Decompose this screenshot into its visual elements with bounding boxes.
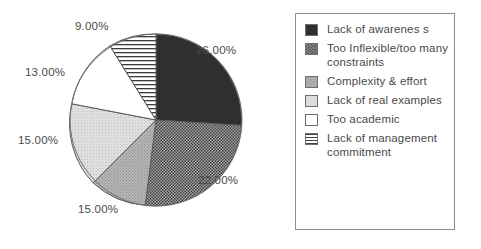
legend-label: Lack of awarenes s bbox=[327, 22, 429, 36]
legend: Lack of awarenes s Too Inflexible/too ma… bbox=[295, 13, 455, 230]
pie-label-15-bottom: 15.00% bbox=[78, 203, 118, 215]
pie-plot-area: 26.00% 22.00% 15.00% 15.00% 13.00% 9.00% bbox=[0, 0, 290, 249]
legend-item-too-academic[interactable]: Too academic bbox=[305, 112, 451, 126]
legend-label: Lack of real examples bbox=[327, 93, 442, 107]
legend-label: Lack of management commitment bbox=[327, 131, 451, 159]
pie-svg bbox=[0, 0, 290, 249]
legend-item-complexity-effort[interactable]: Complexity & effort bbox=[305, 74, 451, 88]
legend-swatch-solid-dark-icon bbox=[305, 24, 318, 36]
legend-swatch-horizontal-lines-icon bbox=[305, 133, 318, 145]
pie-label-15-left: 15.00% bbox=[18, 134, 58, 146]
legend-item-lack-of-management-commitment[interactable]: Lack of management commitment bbox=[305, 131, 451, 159]
legend-item-lack-of-real-examples[interactable]: Lack of real examples bbox=[305, 93, 451, 107]
legend-label: Complexity & effort bbox=[327, 74, 427, 88]
legend-label: Too Inflexible/too many constraints bbox=[327, 41, 451, 69]
legend-label: Too academic bbox=[327, 112, 400, 126]
pie-label-9: 9.00% bbox=[75, 20, 109, 32]
legend-item-too-inflexible[interactable]: Too Inflexible/too many constraints bbox=[305, 41, 451, 69]
legend-swatch-checker-icon bbox=[305, 43, 318, 55]
legend-swatch-light-gray-icon bbox=[305, 95, 318, 107]
legend-swatch-mid-gray-icon bbox=[305, 76, 318, 88]
pie-label-22: 22.00% bbox=[198, 174, 238, 186]
pie-slice-too-inflexible bbox=[145, 120, 241, 206]
legend-items: Lack of awarenes s Too Inflexible/too ma… bbox=[305, 22, 451, 164]
pie-label-26: 26.00% bbox=[196, 44, 236, 56]
legend-swatch-white-icon bbox=[305, 114, 318, 126]
legend-item-lack-of-awareness[interactable]: Lack of awarenes s bbox=[305, 22, 451, 36]
pie-label-13: 13.00% bbox=[25, 66, 65, 78]
pie-chart-figure: 26.00% 22.00% 15.00% 15.00% 13.00% 9.00%… bbox=[0, 0, 481, 249]
